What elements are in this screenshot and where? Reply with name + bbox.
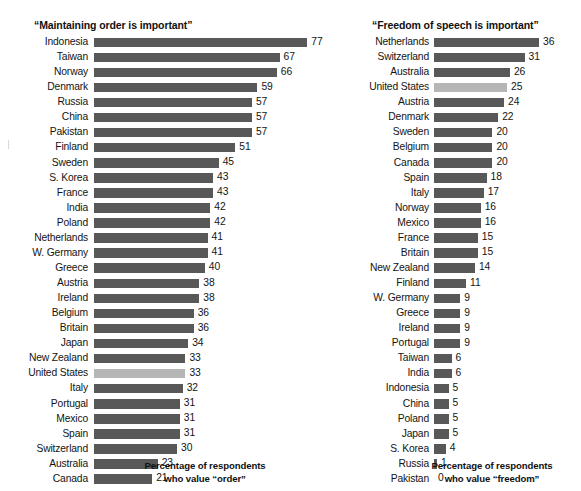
bar-row-label: S. Korea <box>340 443 429 455</box>
bar <box>94 324 194 334</box>
bar-value-label: 43 <box>217 186 228 198</box>
axis-caption-order-line1: Percentage of respondents <box>110 460 300 473</box>
bar-row: Norway66 <box>0 66 330 81</box>
bar <box>94 38 307 48</box>
bar-value-label: 6 <box>456 367 462 379</box>
bar-row: Mexico16 <box>330 217 581 232</box>
bar <box>94 158 219 168</box>
bar-value-label: 16 <box>485 201 496 213</box>
bar-value-label: 16 <box>485 216 496 228</box>
bar <box>94 309 194 319</box>
bar-row: Britain36 <box>0 322 330 337</box>
bar-row-label: Japan <box>0 337 88 349</box>
bar-row: Netherlands36 <box>330 36 581 51</box>
bar-row: Russia57 <box>0 96 330 111</box>
bar <box>94 188 213 198</box>
bar <box>434 143 492 153</box>
bar-row-label: Indonesia <box>0 36 88 48</box>
bar-row-label: New Zealand <box>0 352 88 364</box>
bar <box>94 354 185 364</box>
bar-row-label: France <box>340 232 429 244</box>
bar-value-label: 57 <box>256 126 267 138</box>
bar <box>434 113 498 123</box>
bar-rows-freedom: Netherlands36Switzerland31Australia26Uni… <box>330 36 581 488</box>
bar-row-label: Belgium <box>0 307 88 319</box>
bar-row-label: Portugal <box>0 398 88 410</box>
bar-row-label: Denmark <box>0 81 88 93</box>
bar-row: India6 <box>330 367 581 382</box>
bar-row: Taiwan6 <box>330 352 581 367</box>
bar-row-label: China <box>340 398 429 410</box>
bar-value-label: 66 <box>281 66 292 78</box>
bar <box>434 188 484 198</box>
axis-caption-freedom-line1: Percentage of respondents <box>402 460 581 473</box>
bar <box>434 263 475 273</box>
bar-row-label: W. Germany <box>340 292 429 304</box>
bar-row-label: Ireland <box>0 292 88 304</box>
bar-row-label: Australia <box>0 458 88 470</box>
bar <box>94 444 177 454</box>
bar <box>434 98 504 108</box>
bar-row: New Zealand14 <box>330 262 581 277</box>
bar-row: Austria38 <box>0 277 330 292</box>
bar-row: Belgium36 <box>0 307 330 322</box>
bar <box>434 339 460 349</box>
bar-row-label: Portugal <box>340 337 429 349</box>
bar-row-label: W. Germany <box>0 247 88 259</box>
bar-value-label: 33 <box>189 352 200 364</box>
bar-value-label: 51 <box>239 141 250 153</box>
bar-value-label: 32 <box>187 382 198 394</box>
bar-row-label: Norway <box>340 202 429 214</box>
bar-row-label: New Zealand <box>340 262 429 274</box>
bar-row-label: Mexico <box>0 413 88 425</box>
bar-row-label: Britain <box>0 322 88 334</box>
bar-value-label: 31 <box>184 397 195 409</box>
bar-row: Switzerland30 <box>0 443 330 458</box>
bar-row: Italy32 <box>0 382 330 397</box>
bar-row-label: India <box>340 367 429 379</box>
bar-row: United States33 <box>0 367 330 382</box>
bar-value-label: 59 <box>261 81 272 93</box>
bar-row-label: S. Korea <box>0 172 88 184</box>
bar-row: Netherlands41 <box>0 232 330 247</box>
bar-value-label: 31 <box>184 412 195 424</box>
bar-row-label: United States <box>340 81 429 93</box>
bar <box>434 128 492 138</box>
bar-value-label: 20 <box>496 126 507 138</box>
bar-value-label: 11 <box>470 277 481 289</box>
bar <box>434 38 539 48</box>
bar-highlighted <box>94 369 185 379</box>
bar <box>94 339 188 349</box>
bar-row-label: Poland <box>340 413 429 425</box>
bar <box>94 399 180 409</box>
bar-value-label: 15 <box>482 246 493 258</box>
bar-row: Taiwan67 <box>0 51 330 66</box>
bar-row: Portugal9 <box>330 337 581 352</box>
bar-row-label: Australia <box>340 66 429 78</box>
bar <box>434 369 452 379</box>
bar-value-label: 43 <box>217 171 228 183</box>
bar-value-label: 25 <box>511 81 522 93</box>
bar-value-label: 36 <box>543 36 554 48</box>
bar <box>94 98 252 108</box>
bar-value-label: 41 <box>212 231 223 243</box>
bar <box>434 294 460 304</box>
bar-value-label: 33 <box>189 367 200 379</box>
bar-row-label: Japan <box>340 428 429 440</box>
bar <box>434 158 492 168</box>
bar-rows-order: Indonesia77Taiwan67Norway66Denmark59Russ… <box>0 36 330 488</box>
bar-value-label: 20 <box>496 156 507 168</box>
bar-value-label: 38 <box>203 292 214 304</box>
bar-row: China57 <box>0 111 330 126</box>
bar <box>434 324 460 334</box>
bar-row-label: Pakistan <box>0 126 88 138</box>
chart-panel-order: “Maintaining order is important” Indones… <box>0 0 330 491</box>
bar-row-label: Indonesia <box>340 382 429 394</box>
bar-row: United States25 <box>330 81 581 96</box>
bar-row: Denmark59 <box>0 81 330 96</box>
chart-panel-freedom: “Freedom of speech is important” Netherl… <box>330 0 581 491</box>
bar-row-label: Norway <box>0 66 88 78</box>
bar-row: Belgium20 <box>330 141 581 156</box>
bar-row-label: Netherlands <box>340 36 429 48</box>
bar-row-label: Finland <box>340 277 429 289</box>
